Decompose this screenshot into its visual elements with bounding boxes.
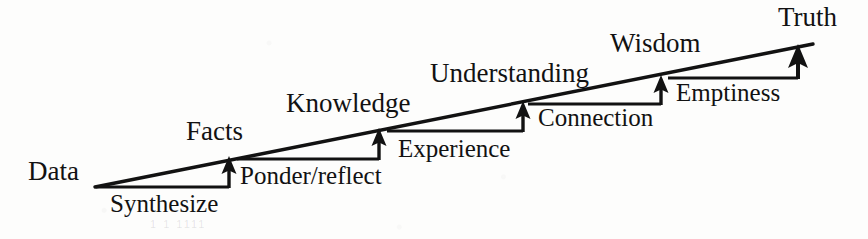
transition-label-synthesize: Synthesize xyxy=(110,191,218,216)
stage-label-data: Data xyxy=(28,158,79,185)
stage-label-understanding: Understanding xyxy=(430,60,589,87)
transition-label-ponder-reflect: Ponder/reflect xyxy=(240,163,382,188)
knowledge-hierarchy-diagram: 1 1 1111 xyxy=(0,0,868,239)
stage-label-knowledge: Knowledge xyxy=(286,90,410,117)
transition-label-connection: Connection xyxy=(538,105,653,130)
stage-label-facts: Facts xyxy=(186,118,243,145)
transition-label-emptiness: Emptiness xyxy=(676,80,780,105)
stage-label-truth: Truth xyxy=(778,4,837,31)
transition-label-experience: Experience xyxy=(398,136,510,161)
stage-label-wisdom: Wisdom xyxy=(610,30,700,57)
